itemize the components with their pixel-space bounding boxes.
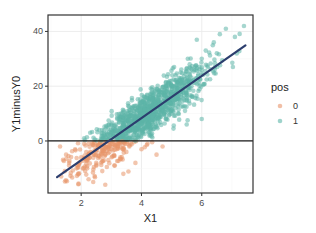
data-point [148,86,153,91]
data-point [109,147,114,152]
data-point [92,174,97,179]
data-point [124,111,129,116]
data-point [169,69,174,74]
scatter-chart: 246 02040 X1 Y1minusY0 pos 01 [0,0,316,233]
data-point [202,82,207,87]
data-point [133,161,138,166]
data-point [208,53,213,58]
data-point [185,118,190,123]
data-point [179,104,184,109]
data-point [65,179,70,184]
data-point [212,40,217,45]
data-point [145,141,150,146]
data-point [142,107,147,112]
data-point [160,144,165,149]
data-point [183,109,188,114]
data-point [97,128,102,133]
y-axis-title: Y1minusY0 [10,76,22,132]
data-point [82,141,87,146]
data-point [205,65,210,70]
data-point [70,175,75,180]
data-point [62,159,67,164]
data-point [103,182,108,187]
data-point [187,62,192,67]
data-point [76,141,81,146]
data-point [157,96,162,101]
x-tick-label: 2 [79,198,84,208]
data-point [172,65,177,70]
data-point [215,51,220,56]
data-point [163,84,168,89]
data-point [153,99,158,104]
data-point [131,132,136,137]
data-point [109,122,114,127]
data-point [146,102,151,107]
data-point [127,144,132,149]
data-point [115,141,120,146]
y-tick-label: 20 [33,81,43,91]
data-point [199,57,204,62]
data-point [86,177,91,182]
data-point [180,76,185,81]
data-point [197,87,202,92]
data-point [109,109,114,114]
data-point [68,171,73,176]
data-point [78,147,83,152]
data-point [199,117,204,122]
data-point [183,71,188,76]
data-point [224,26,229,31]
data-point [192,102,197,107]
data-point [101,148,106,153]
data-point [126,169,131,174]
data-point [146,123,151,128]
data-point [174,78,179,83]
data-point [132,112,137,117]
data-point [173,100,178,105]
data-point [73,147,78,152]
data-point [171,110,176,115]
data-point [194,38,199,43]
data-point [153,87,158,92]
data-point [91,180,96,185]
data-point [109,113,114,118]
data-point [139,122,144,127]
y-tick-label: 0 [38,136,43,146]
data-point [162,112,167,117]
x-tick-label: 4 [139,198,144,208]
legend-key-1 [278,119,283,124]
data-point [106,158,111,163]
data-point [84,172,89,177]
data-point [157,89,162,94]
data-point [69,155,74,160]
data-point [106,118,111,123]
data-point [121,172,126,177]
data-point [157,113,162,118]
data-point [76,172,81,177]
data-point [105,165,110,170]
data-point [112,153,117,158]
data-point [151,113,156,118]
data-point [82,136,87,141]
legend-key-0 [278,104,283,109]
x-axis-title: X1 [144,212,157,224]
data-point [218,32,223,37]
data-point [130,106,135,111]
data-point [178,70,183,75]
data-point [173,105,178,110]
data-point [157,117,162,122]
data-point [171,84,176,89]
data-point [58,144,63,149]
data-point [176,111,181,116]
data-point [76,182,81,187]
legend-label-0: 0 [293,101,298,111]
data-point [85,166,90,171]
data-point [233,35,238,40]
data-point [173,73,178,78]
data-point [184,122,189,127]
data-point [237,32,242,37]
data-point [230,61,235,66]
data-point [99,160,104,165]
data-point [142,96,147,101]
x-tick-label: 6 [199,198,204,208]
legend-label-1: 1 [293,116,298,126]
